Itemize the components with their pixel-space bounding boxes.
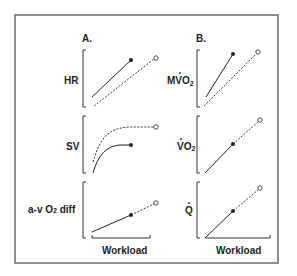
- y-bracket-q: [197, 182, 200, 238]
- panel-a-label: A.: [82, 33, 92, 44]
- mvo2-filled-dot: [231, 52, 235, 56]
- plot-av-o2-diff: a-v O2 diff: [28, 182, 158, 238]
- xlabel-b: Workload: [216, 245, 261, 256]
- vo2-overdot-icon: [180, 138, 182, 140]
- panel-b: B. MVO2 VO2 Q: [167, 33, 270, 256]
- ylabel-sv: SV: [66, 141, 80, 152]
- ylabel-q: Q: [185, 205, 193, 216]
- ylabel-mvo2: MVO2: [167, 75, 194, 87]
- y-bracket-vo2: [197, 116, 200, 173]
- xlabel-a: Workload: [102, 245, 147, 256]
- plot-q: Q: [185, 182, 270, 238]
- q-solid-line: [205, 211, 233, 238]
- sv-filled-dot: [129, 143, 133, 147]
- av-solid-line: [92, 215, 131, 232]
- y-bracket-av-o2-diff: [83, 182, 86, 238]
- hr-filled-dot: [129, 58, 133, 62]
- plot-sv: SV: [66, 116, 158, 173]
- q-open-circle: [258, 186, 262, 190]
- q-overdot-icon: [188, 202, 190, 204]
- y-bracket-sv: [83, 116, 86, 173]
- panel-a: A. HR SV a-v O2 diff: [28, 33, 158, 256]
- vo2-solid-line: [205, 144, 233, 173]
- ylabel-vo2: VO2: [177, 141, 195, 152]
- vo2-dashed-line: [233, 122, 258, 144]
- sv-open-circle: [154, 125, 158, 129]
- sv-solid-curve: [93, 145, 131, 173]
- ylabel-hr: HR: [64, 75, 79, 86]
- mvo2-overdot-icon: [179, 72, 181, 74]
- physiology-workload-diagram: A. HR SV a-v O2 diff: [0, 0, 297, 276]
- plot-vo2: VO2: [177, 116, 262, 173]
- vo2-open-circle: [258, 118, 262, 122]
- plot-mvo2: MVO2: [167, 50, 260, 107]
- av-open-circle: [154, 201, 158, 205]
- panel-b-label: B.: [196, 33, 206, 44]
- hr-open-circle: [154, 56, 158, 60]
- hr-solid-line: [92, 60, 131, 97]
- y-bracket-mvo2: [197, 50, 200, 107]
- mvo2-dashed-line: [204, 54, 256, 106]
- y-bracket-hr: [83, 50, 86, 107]
- av-dashed-line: [131, 204, 154, 215]
- plot-hr: HR: [64, 50, 158, 107]
- ylabel-av-o2-diff: a-v O2 diff: [28, 204, 76, 215]
- q-dashed-line: [233, 190, 258, 211]
- mvo2-open-circle: [256, 50, 260, 54]
